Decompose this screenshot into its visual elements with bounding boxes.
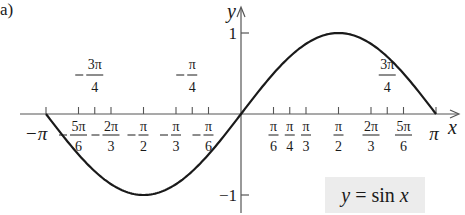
svg-text:4: 4 bbox=[384, 80, 391, 95]
svg-text:4: 4 bbox=[189, 80, 196, 95]
x-tick-label: π2 bbox=[127, 119, 148, 154]
legend-y: y bbox=[341, 184, 350, 207]
svg-text:π: π bbox=[429, 123, 439, 144]
svg-text:π: π bbox=[286, 119, 293, 134]
x-tick-label: π4 bbox=[176, 57, 197, 95]
svg-text:4: 4 bbox=[91, 80, 98, 95]
svg-text:6: 6 bbox=[400, 139, 407, 154]
svg-text:5π: 5π bbox=[396, 119, 410, 134]
svg-text:3: 3 bbox=[107, 139, 114, 154]
svg-text:π: π bbox=[172, 119, 179, 134]
svg-text:3: 3 bbox=[303, 139, 310, 154]
legend-equation: y = sin x bbox=[325, 177, 425, 213]
x-tick-label: π3 bbox=[160, 119, 181, 154]
x-tick-label: π bbox=[429, 123, 439, 144]
svg-text:2: 2 bbox=[140, 139, 147, 154]
y-tick-label: −1 bbox=[219, 186, 237, 205]
svg-text:π: π bbox=[302, 119, 309, 134]
svg-text:π: π bbox=[189, 57, 196, 72]
svg-text:3: 3 bbox=[172, 139, 179, 154]
svg-text:−π: −π bbox=[25, 123, 48, 144]
legend-eq: = sin bbox=[350, 184, 400, 207]
x-tick-label: 2π3 bbox=[91, 119, 119, 154]
svg-text:π: π bbox=[335, 119, 342, 134]
svg-text:3π: 3π bbox=[380, 57, 394, 72]
x-tick-label: π3 bbox=[301, 119, 311, 154]
svg-text:2π: 2π bbox=[364, 119, 378, 134]
y-axis-label: y bbox=[225, 0, 236, 23]
x-tick-label: π4 bbox=[285, 119, 295, 154]
svg-text:π: π bbox=[205, 119, 212, 134]
x-tick-label: 5π6 bbox=[395, 119, 412, 154]
x-tick-label: 3π4 bbox=[75, 57, 103, 95]
svg-text:3: 3 bbox=[368, 139, 375, 154]
y-tick-label: 1 bbox=[229, 24, 238, 43]
svg-text:5π: 5π bbox=[71, 119, 85, 134]
x-tick-label: π2 bbox=[334, 119, 344, 154]
svg-text:3π: 3π bbox=[88, 57, 102, 72]
x-axis-label: x bbox=[447, 116, 457, 138]
svg-text:π: π bbox=[140, 119, 147, 134]
x-tick-label: π6 bbox=[192, 119, 213, 154]
svg-text:2π: 2π bbox=[104, 119, 118, 134]
svg-text:2: 2 bbox=[335, 139, 342, 154]
svg-text:π: π bbox=[270, 119, 277, 134]
x-tick-label: −π bbox=[25, 123, 48, 144]
legend-x: x bbox=[400, 184, 409, 207]
svg-text:6: 6 bbox=[270, 139, 277, 154]
x-tick-label: π6 bbox=[269, 119, 279, 154]
x-tick-label: 2π3 bbox=[363, 119, 380, 154]
svg-text:4: 4 bbox=[286, 139, 293, 154]
